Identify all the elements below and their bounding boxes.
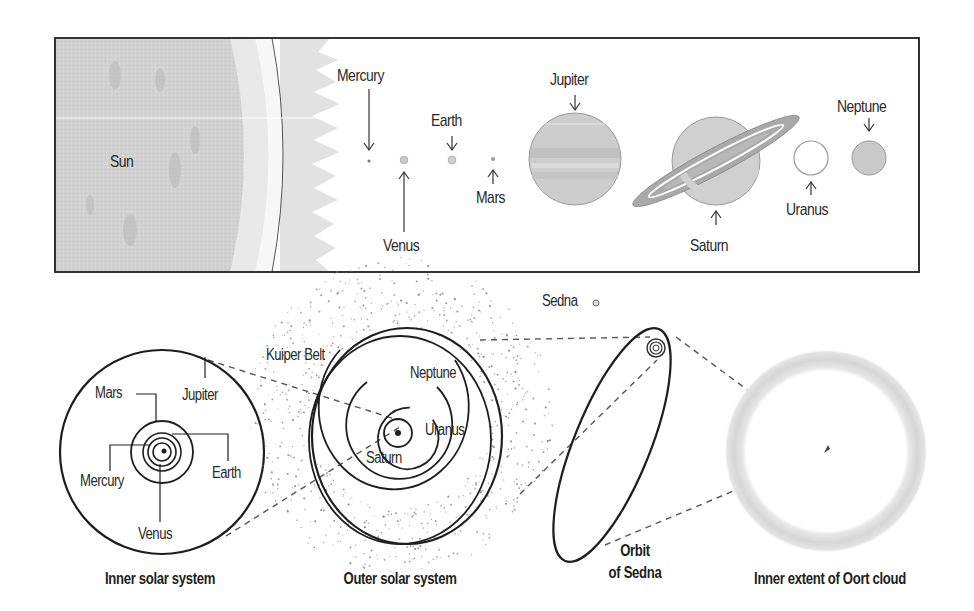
inner-solar-system-caption: Inner solar system <box>78 570 242 588</box>
inner-solar-system-diagram <box>60 350 264 554</box>
outer-neptune-label: Neptune <box>410 364 456 382</box>
uranus-planet <box>794 141 828 175</box>
outer-saturn-label: Saturn <box>366 449 402 467</box>
orbit-of-sedna-caption-line1: Orbit <box>598 542 672 560</box>
mars-label: Mars <box>476 188 505 208</box>
outer-solar-system-caption: Outer solar system <box>310 570 490 588</box>
venus-label: Venus <box>383 236 419 256</box>
mercury-dot <box>368 160 371 163</box>
neptune-planet <box>852 141 886 175</box>
inner-mars-label: Mars <box>95 384 122 402</box>
inner-mercury-label: Mercury <box>80 472 124 490</box>
mars-dot <box>491 157 495 161</box>
earth-label: Earth <box>431 111 462 131</box>
saturn-label: Saturn <box>690 236 728 256</box>
inner-jupiter-label: Jupiter <box>182 386 218 404</box>
kuiper-belt-label: Kuiper Belt <box>266 346 325 364</box>
sedna-orbit-diagram <box>530 300 694 575</box>
outer-solar-system-diagram <box>309 328 502 544</box>
jupiter-label: Jupiter <box>550 70 588 90</box>
oort-cloud-caption: Inner extent of Oort cloud <box>723 570 936 588</box>
jupiter-planet <box>529 113 621 205</box>
inner-venus-label: Venus <box>138 525 172 543</box>
kuiper-belt-particles <box>250 257 553 574</box>
sun-label: Sun <box>110 152 133 172</box>
earth-dot <box>448 156 456 164</box>
venus-dot <box>400 156 408 164</box>
top-panel <box>55 38 919 272</box>
inner-earth-label: Earth <box>212 464 241 482</box>
solar-system-diagram: Sun Mercury Venus Earth Mars Jupiter Sat… <box>0 0 974 611</box>
mercury-label: Mercury <box>337 66 384 86</box>
outer-uranus-label: Uranus <box>425 421 464 439</box>
uranus-label: Uranus <box>786 200 828 220</box>
sedna-label: Sedna <box>542 292 577 310</box>
diagram-graphics <box>0 0 974 611</box>
orbit-of-sedna-caption-line2: of Sedna <box>590 564 680 582</box>
oort-cloud-ring <box>724 349 928 553</box>
sedna-dot <box>593 300 599 306</box>
neptune-label: Neptune <box>837 97 886 117</box>
